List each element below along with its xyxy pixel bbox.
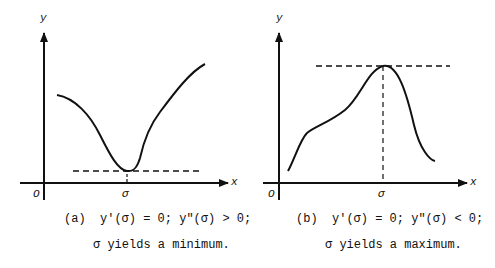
sigma-label-a: σ: [122, 188, 129, 200]
origin-label-b: O: [268, 188, 275, 200]
diagram-canvas: [0, 0, 495, 268]
panel-a: [20, 33, 228, 200]
caption-a-line2: σ yields a minimum.: [93, 238, 230, 252]
curve-b: [288, 66, 435, 171]
origin-label-a: O: [33, 188, 40, 200]
curve-a: [57, 64, 205, 171]
y-axis-label-b: y: [276, 12, 283, 24]
caption-b-line2: σ yields a maximum.: [325, 238, 462, 252]
sigma-label-b: σ: [378, 188, 385, 200]
x-axis-label-a: x: [231, 176, 238, 188]
caption-b-line1: (b) y'(σ) = 0; y"(σ) < 0;: [296, 212, 483, 226]
caption-a-line1: (a) y'(σ) = 0; y"(σ) > 0;: [64, 212, 251, 226]
x-axis-label-b: x: [470, 176, 477, 188]
y-axis-label-a: y: [40, 12, 47, 24]
panel-b: [263, 33, 467, 200]
